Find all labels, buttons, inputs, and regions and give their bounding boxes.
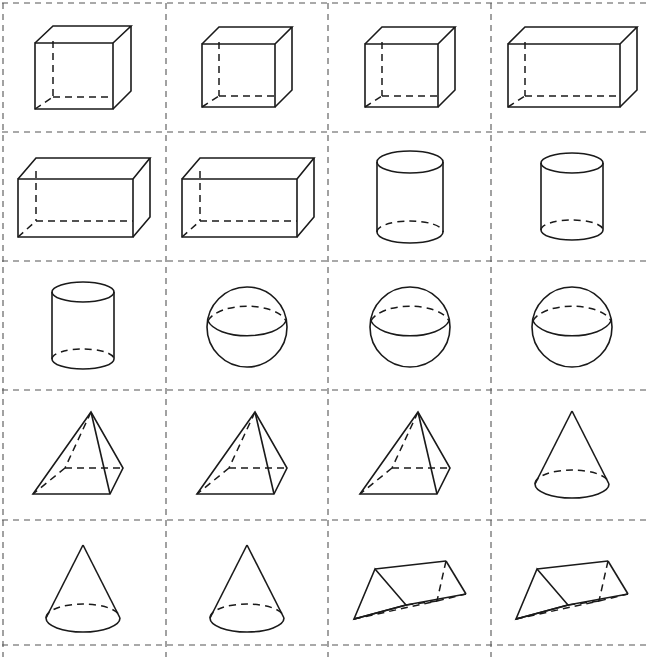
cell-3-cube[interactable] (328, 0, 491, 133)
cell-5-rectangular-prism[interactable] (0, 133, 165, 262)
cell-17-cone[interactable] (0, 521, 165, 658)
cube-icon (27, 17, 139, 117)
sphere-icon (526, 281, 618, 373)
cell-6-rectangular-prism[interactable] (165, 133, 328, 262)
cell-grid (0, 0, 653, 658)
cell-4-rectangular-prism[interactable] (491, 0, 653, 133)
cylinder-icon (43, 277, 123, 377)
cone-icon (35, 538, 131, 642)
rectangular-prism-icon (9, 151, 157, 245)
cell-7-cylinder[interactable] (328, 133, 491, 262)
sphere-icon (364, 281, 456, 373)
cell-20-triangular-prism[interactable] (491, 521, 653, 658)
triangular-prism-icon (506, 547, 638, 633)
cell-15-square-pyramid[interactable] (328, 391, 491, 521)
rectangular-prism-icon (173, 151, 321, 245)
square-pyramid-icon (23, 404, 143, 508)
square-pyramid-icon (350, 404, 470, 508)
cell-8-cylinder[interactable] (491, 133, 653, 262)
cell-1-cube[interactable] (0, 0, 165, 133)
cone-icon (524, 404, 620, 508)
cylinder-icon (532, 148, 612, 248)
cone-icon (199, 538, 295, 642)
cell-16-cone[interactable] (491, 391, 653, 521)
cell-18-cone[interactable] (165, 521, 328, 658)
cube-icon (358, 19, 462, 115)
worksheet-sheet (0, 0, 653, 658)
cell-11-sphere[interactable] (328, 262, 491, 391)
cube-icon (195, 19, 299, 115)
cell-10-sphere[interactable] (165, 262, 328, 391)
sphere-icon (201, 281, 293, 373)
triangular-prism-icon (344, 547, 476, 633)
cell-12-sphere[interactable] (491, 262, 653, 391)
cell-9-cylinder[interactable] (0, 262, 165, 391)
cell-19-triangular-prism[interactable] (328, 521, 491, 658)
cell-2-cube[interactable] (165, 0, 328, 133)
cell-13-square-pyramid[interactable] (0, 391, 165, 521)
cell-14-square-pyramid[interactable] (165, 391, 328, 521)
rectangular-prism-icon (500, 19, 644, 115)
cylinder-icon (368, 146, 452, 250)
square-pyramid-icon (187, 404, 307, 508)
